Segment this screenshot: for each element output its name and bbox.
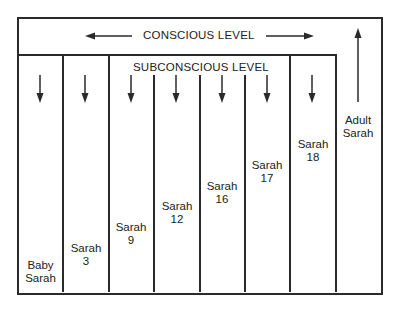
- label-baby-sarah: Baby Sarah: [19, 259, 62, 285]
- down-arrow-icon: [126, 75, 136, 103]
- label-sarah-9: Sarah 9: [109, 221, 153, 247]
- up-arrow-icon: [353, 28, 363, 102]
- conscious-level-label: CONSCIOUS LEVEL: [143, 29, 255, 41]
- right-arrow-icon: [266, 31, 314, 41]
- down-arrow-icon: [35, 75, 45, 103]
- down-arrow-icon: [307, 75, 317, 103]
- down-arrow-icon: [80, 75, 90, 103]
- down-arrow-icon: [171, 75, 181, 103]
- down-arrow-icon: [217, 75, 227, 103]
- label-sarah-18: Sarah 18: [291, 138, 335, 164]
- column-divider: [289, 54, 291, 292]
- subconscious-level-label: SUBCONSCIOUS LEVEL: [133, 61, 269, 73]
- label-adult-sarah: Adult Sarah: [337, 114, 379, 140]
- column-divider: [153, 75, 155, 292]
- label-sarah-16: Sarah 16: [200, 180, 244, 206]
- down-arrow-icon: [262, 75, 272, 103]
- left-arrow-icon: [85, 31, 133, 41]
- label-sarah-3: Sarah 3: [64, 242, 108, 268]
- label-sarah-17: Sarah 17: [245, 159, 289, 185]
- column-divider: [108, 54, 110, 292]
- label-sarah-12: Sarah 12: [155, 200, 199, 226]
- subconscious-right-border: [335, 54, 337, 292]
- diagram: CONSCIOUS LEVEL SUBCONSCIOUS LEVEL: [0, 0, 398, 309]
